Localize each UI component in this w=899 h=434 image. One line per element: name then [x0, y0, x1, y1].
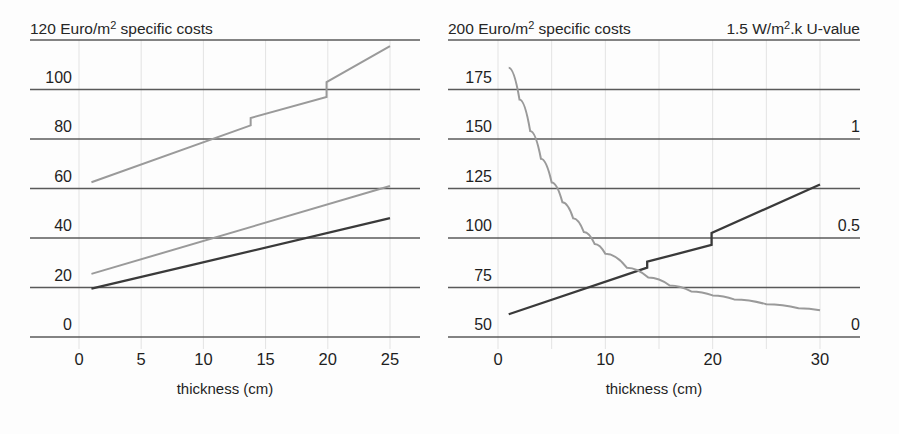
right-y-tick-75: 75 — [474, 267, 492, 284]
right-x-tick-0: 0 — [493, 350, 502, 368]
right-x-tick-30: 30 — [811, 350, 829, 368]
left-x-tick-25: 25 — [381, 350, 399, 368]
figure-container: 120 Euro/m2 specific costs10080604020005… — [0, 0, 899, 434]
left-y-tick-80: 80 — [54, 118, 72, 135]
left-series-group — [91, 46, 390, 289]
right-chart-header-right: 1.5 W/m2.k U-value — [726, 19, 860, 37]
right-y-tick-150: 150 — [465, 118, 492, 135]
left-y-tick-40: 40 — [54, 217, 72, 234]
right-chart-panel: 200 Euro/m2 specific costs1.5 W/m2.k U-v… — [430, 0, 899, 434]
left-chart-header: 120 Euro/m2 specific costs — [30, 19, 213, 37]
left-y-tick-100: 100 — [45, 69, 72, 86]
left-x-tick-15: 15 — [256, 350, 274, 368]
right-y2-tick-0.5: 0.5 — [838, 217, 860, 234]
right-y2-tick-1: 1 — [851, 118, 860, 135]
left-y-tick-0: 0 — [63, 316, 72, 333]
right-y-tick-50: 50 — [474, 316, 492, 333]
left-series-2 — [91, 218, 390, 289]
left-series-0 — [91, 46, 390, 182]
left-x-tick-5: 5 — [137, 350, 146, 368]
left-chart-svg: 120 Euro/m2 specific costs10080604020005… — [0, 0, 430, 434]
right-series-0 — [509, 185, 820, 315]
left-y-tick-60: 60 — [54, 168, 72, 185]
right-chart-header-left: 200 Euro/m2 specific costs — [448, 19, 631, 37]
right-x-tick-20: 20 — [703, 350, 721, 368]
left-x-tick-0: 0 — [74, 350, 83, 368]
right-series-group — [509, 68, 820, 315]
left-y-tick-20: 20 — [54, 267, 72, 284]
left-chart-panel: 120 Euro/m2 specific costs10080604020005… — [0, 0, 430, 434]
left-x-axis-label: thickness (cm) — [177, 380, 274, 397]
right-chart-svg: 200 Euro/m2 specific costs1.5 W/m2.k U-v… — [430, 0, 899, 434]
right-y-tick-100: 100 — [465, 217, 492, 234]
right-y-tick-125: 125 — [465, 168, 492, 185]
right-x-axis-label: thickness (cm) — [606, 380, 703, 397]
left-x-tick-10: 10 — [194, 350, 212, 368]
left-x-tick-20: 20 — [319, 350, 337, 368]
right-y2-tick-0: 0 — [851, 316, 860, 333]
right-y-tick-175: 175 — [465, 69, 492, 86]
right-x-tick-10: 10 — [596, 350, 614, 368]
